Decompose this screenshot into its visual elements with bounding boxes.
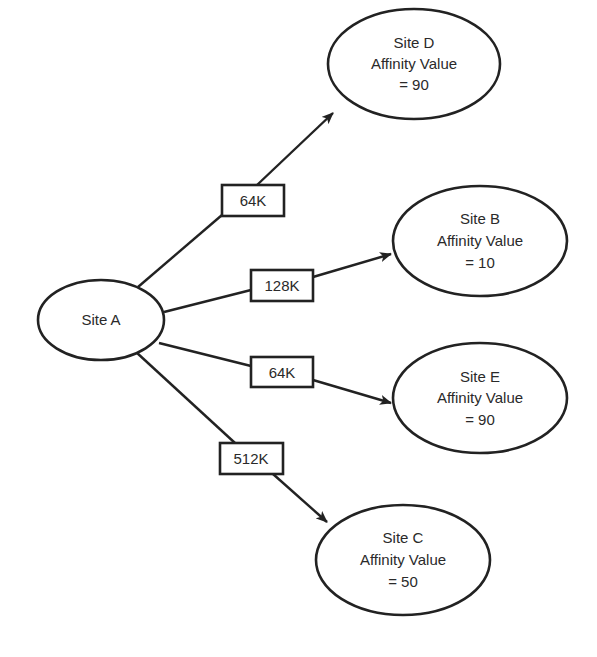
node-title: Site D <box>394 34 435 51</box>
node-site-c: Site C Affinity Value = 50 <box>316 505 490 615</box>
edge-a-to-e: 64K <box>159 343 391 403</box>
node-affinity-value: = 90 <box>399 76 429 93</box>
node-affinity-label: Affinity Value <box>371 55 457 72</box>
node-affinity-value: = 90 <box>465 411 495 428</box>
edge-a-to-b: 128K <box>164 254 391 312</box>
edge-label: 64K <box>269 364 296 381</box>
edge-label: 512K <box>233 450 268 467</box>
node-site-a: Site A <box>38 280 164 360</box>
node-affinity-value: = 50 <box>388 573 418 590</box>
node-affinity-label: Affinity Value <box>437 389 523 406</box>
node-title: Site B <box>460 210 500 227</box>
edge-label: 64K <box>240 192 267 209</box>
node-title: Site C <box>383 529 424 546</box>
edge-a-to-d: 64K <box>138 113 333 287</box>
node-affinity-label: Affinity Value <box>437 232 523 249</box>
node-site-b: Site B Affinity Value = 10 <box>393 186 567 296</box>
node-site-d: Site D Affinity Value = 90 <box>328 9 500 119</box>
node-site-e: Site E Affinity Value = 90 <box>393 343 567 453</box>
edge-label: 128K <box>264 277 299 294</box>
node-label: Site A <box>81 311 120 328</box>
node-affinity-value: = 10 <box>465 254 495 271</box>
network-diagram: 64K 128K 64K 512K Site A Site D Affinity… <box>0 0 597 657</box>
node-title: Site E <box>460 368 500 385</box>
node-affinity-label: Affinity Value <box>360 551 446 568</box>
